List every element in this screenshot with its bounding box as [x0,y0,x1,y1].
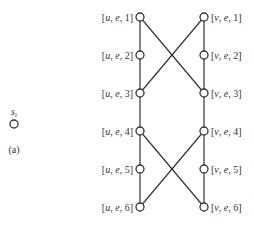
node-labels: [u, e, 1][u, e, 2][u, e, 3][u, e, 4][u, … [102,12,242,213]
node-label-v4: [v, e, 4] [211,126,242,137]
node-label-v6: [v, e, 6] [211,202,242,213]
node-u5 [136,165,144,173]
node-v2 [200,51,208,59]
nodes [136,13,208,211]
node-label-v1: [v, e, 1] [211,12,242,23]
node-label-v2: [v, e, 2] [211,50,242,61]
edges [140,17,204,207]
node-label-u6: [u, e, 6] [102,202,133,213]
node-u1 [136,13,144,21]
isolated-node-label: si [11,106,17,119]
node-u2 [136,51,144,59]
node-label-u3: [u, e, 3] [102,88,133,99]
panel-label: (a) [8,144,19,156]
node-u3 [136,89,144,97]
node-u6 [136,203,144,211]
node-v1 [200,13,208,21]
node-v3 [200,89,208,97]
node-label-u5: [u, e, 5] [102,164,133,175]
node-v4 [200,127,208,135]
isolated-node-group: si [10,106,18,128]
node-label-v5: [v, e, 5] [211,164,242,175]
isolated-node [10,120,18,128]
gadget-diagram: [u, e, 1][u, e, 2][u, e, 3][u, e, 4][u, … [0,0,254,226]
node-label-u2: [u, e, 2] [102,50,133,61]
node-u4 [136,127,144,135]
node-v6 [200,203,208,211]
node-label-u4: [u, e, 4] [102,126,133,137]
node-label-u1: [u, e, 1] [102,12,133,23]
node-label-v3: [v, e, 3] [211,88,242,99]
node-v5 [200,165,208,173]
